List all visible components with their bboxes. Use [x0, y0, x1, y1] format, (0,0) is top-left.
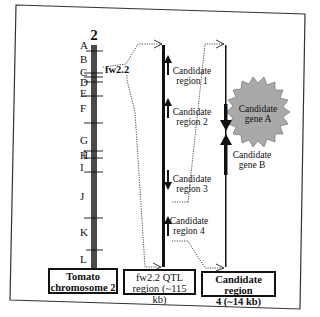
svg-text:Candidate: Candidate	[239, 104, 278, 114]
svg-text:Candidate: Candidate	[173, 66, 212, 76]
svg-text:region 1: region 1	[176, 76, 208, 86]
caption-line: region (~115 kb)	[125, 283, 194, 305]
caption-line: 4 (~14 kb)	[203, 296, 274, 307]
svg-text:gene B: gene B	[239, 160, 266, 170]
chromosome-bar	[91, 45, 97, 270]
qtl-label: fw2.2	[105, 64, 129, 75]
svg-text:Candidate: Candidate	[233, 150, 272, 160]
svg-text:I: I	[80, 161, 84, 173]
svg-text:region 2: region 2	[176, 117, 208, 127]
caption-qtl-region: fw2.2 QTL region (~115 kb)	[123, 269, 196, 295]
caption-line: Tomato	[50, 271, 116, 282]
svg-text:region 4: region 4	[173, 226, 205, 236]
caption-line: Candidate region	[203, 274, 274, 296]
caption-line: chromosome 2	[50, 282, 116, 293]
svg-text:region 3: region 3	[176, 184, 208, 194]
caption-line: fw2.2 QTL	[125, 272, 194, 283]
svg-text:Candidate: Candidate	[173, 174, 212, 184]
svg-text:L: L	[80, 253, 87, 265]
svg-text:G: G	[80, 134, 88, 146]
svg-text:gene A: gene A	[245, 114, 272, 124]
svg-text:Candidate: Candidate	[170, 216, 209, 226]
caption-candidate-region: Candidate region 4 (~14 kb)	[201, 271, 276, 297]
svg-text:B: B	[80, 53, 87, 65]
svg-text:F: F	[80, 102, 86, 114]
svg-text:E: E	[80, 87, 87, 99]
svg-text:K: K	[80, 226, 88, 238]
svg-text:J: J	[80, 190, 85, 202]
svg-text:A: A	[80, 39, 88, 51]
chromosome-number: 2	[90, 27, 98, 43]
caption-tomato-chromosome: Tomato chromosome 2	[48, 268, 118, 294]
qtl-region-bar	[162, 45, 165, 267]
svg-text:Candidate: Candidate	[173, 107, 212, 117]
